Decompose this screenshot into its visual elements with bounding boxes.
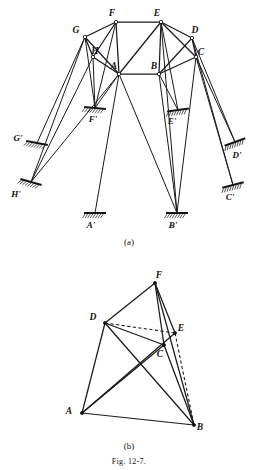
ground-support-Fprime <box>82 107 106 114</box>
joint-D <box>190 36 193 39</box>
solid-member-AE <box>82 333 175 413</box>
joint-b-B <box>192 423 195 426</box>
joint-label-b-A: A <box>65 406 72 416</box>
joint-label-G: G <box>73 25 80 35</box>
figure-container: FEGDHCAB A'B'C'D'E'F'G'H' (a) FDECAB (b)… <box>0 0 259 470</box>
ground-support-Hprime <box>18 179 42 190</box>
solid-member-AB <box>82 413 194 425</box>
joint-E <box>159 20 162 23</box>
support-link-group <box>31 22 235 213</box>
dashed-member-EB <box>175 333 194 425</box>
solid-member-CB <box>164 345 194 425</box>
support-label-Bprime: B' <box>168 220 178 230</box>
joint-label-F: F <box>108 8 116 18</box>
joint-label-b-C: C <box>157 349 164 359</box>
support-label-group: A'B'C'D'E'F'G'H' <box>10 114 242 230</box>
joint-label-b-E: E <box>177 323 184 333</box>
figure-12-7-svg: FEGDHCAB A'B'C'D'E'F'G'H' (a) FDECAB (b)… <box>0 0 259 470</box>
support-label-Dprime: D' <box>232 150 242 160</box>
solid-member-DB <box>105 323 194 425</box>
support-label-Aprime: A' <box>86 220 96 230</box>
frame-member-EB <box>159 22 161 74</box>
joint-b-E <box>173 331 176 334</box>
joint-label-C: C <box>198 47 205 57</box>
solid-member-DF <box>105 283 155 323</box>
support-link-H-Hprime <box>31 57 93 182</box>
support-label-Fprime: F' <box>88 114 98 124</box>
figure-caption: Fig. 12-7. <box>112 457 146 466</box>
joint-label-E: E <box>153 8 160 18</box>
solid-member-group <box>82 283 194 425</box>
support-link-C-Dprime <box>196 57 235 142</box>
dashed-member-DE <box>105 323 175 333</box>
joint-B <box>157 72 160 75</box>
frame-member-ED <box>161 22 192 38</box>
support-link-C-Bprime <box>177 57 196 213</box>
joint-label-B: B <box>150 61 157 71</box>
joint-A <box>117 72 120 75</box>
part-a-diagram: FEGDHCAB A'B'C'D'E'F'G'H' <box>10 8 247 230</box>
support-label-Gprime: G' <box>14 133 23 143</box>
joint-b-F <box>153 281 156 284</box>
joint-label-b-B: B <box>196 422 203 432</box>
support-label-Cprime: C' <box>226 192 235 202</box>
joint-F <box>114 20 117 23</box>
support-group <box>18 107 248 218</box>
solid-member-AD <box>82 323 105 413</box>
support-link-G-Hprime <box>31 37 85 182</box>
frame-member-group <box>85 22 196 74</box>
support-label-Eprime: E' <box>167 116 177 126</box>
support-link-B-Eprime <box>159 74 178 110</box>
support-label-Hprime: H' <box>10 189 21 199</box>
part-label-b: (b) <box>124 441 135 451</box>
joint-G <box>83 35 86 38</box>
joint-label-H: H <box>90 46 99 56</box>
joint-b-D <box>103 321 106 324</box>
joint-label-A: A <box>110 61 117 71</box>
joint-b-A <box>80 411 83 414</box>
joint-b-C <box>162 343 165 346</box>
ground-support-Aprime <box>82 213 106 218</box>
joint-label-D: D <box>191 25 199 35</box>
joint-label-group-b: FDECAB <box>65 270 203 432</box>
joint-label-b-D: D <box>89 312 97 322</box>
support-link-G-Gprime <box>37 37 85 143</box>
ground-support-Bprime <box>164 213 188 218</box>
solid-member-FC <box>155 283 164 345</box>
part-label-a: (a) <box>124 237 134 247</box>
support-link-D-Cprime <box>192 38 233 185</box>
joint-label-b-F: F <box>155 270 163 280</box>
part-b-diagram: FDECAB <box>65 270 203 432</box>
